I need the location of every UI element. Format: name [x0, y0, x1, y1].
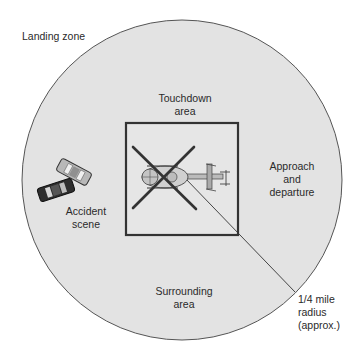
surrounding-text-2: area: [146, 298, 222, 311]
landing-zone-label: Landing zone: [22, 30, 85, 43]
approach-text-2: and: [254, 173, 330, 186]
accident-text-1: Accident: [55, 205, 117, 218]
radius-label: 1/4 mile radius (approx.): [298, 293, 340, 332]
radius-text-2: radius: [298, 306, 340, 319]
accident-scene-label: Accident scene: [55, 205, 117, 231]
approach-text-3: departure: [254, 186, 330, 199]
accident-text-2: scene: [55, 218, 117, 231]
touchdown-text-1: Touchdown: [150, 92, 220, 105]
touchdown-area-label: Touchdown area: [150, 92, 220, 118]
approach-departure-label: Approach and departure: [254, 160, 330, 199]
radius-text-3: (approx.): [298, 319, 340, 332]
surrounding-text-1: Surrounding: [146, 285, 222, 298]
landing-zone-text: Landing zone: [22, 30, 85, 43]
approach-text-1: Approach: [254, 160, 330, 173]
surrounding-area-label: Surrounding area: [146, 285, 222, 311]
radius-text-1: 1/4 mile: [298, 293, 340, 306]
touchdown-text-2: area: [150, 105, 220, 118]
